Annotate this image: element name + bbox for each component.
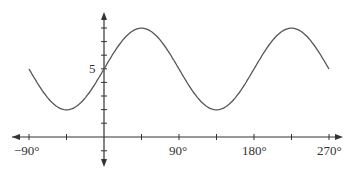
x-axis-left-arrow-icon xyxy=(12,134,20,140)
y-label-5: 5 xyxy=(89,62,96,75)
x-label-90: 90° xyxy=(169,144,187,157)
x-label-neg90: −90° xyxy=(14,144,40,157)
sine-curve xyxy=(29,28,329,110)
y-axis-up-arrow-icon xyxy=(101,12,107,20)
x-label-270: 270° xyxy=(317,144,342,157)
x-axis-right-arrow-icon xyxy=(335,134,343,140)
x-label-180: 180° xyxy=(242,144,267,157)
y-axis-down-arrow-icon xyxy=(101,159,107,167)
